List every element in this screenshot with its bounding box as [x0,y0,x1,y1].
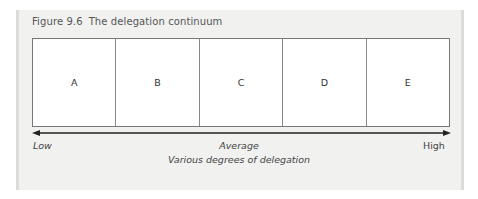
scale-label-high: High [423,140,445,151]
continuum-cell-b: B [116,39,199,126]
axis-label: Various degrees of delegation [0,154,478,165]
figure-number: Figure 9.6 [32,16,83,27]
double-arrow-icon [32,128,451,138]
continuum-cell-a: A [33,39,116,126]
continuum-cell-c: C [200,39,283,126]
continuum-boxes: A B C D E [32,38,450,127]
scale-label-average: Average [0,140,478,151]
figure-title: The delegation continuum [89,16,223,27]
continuum-cell-d: D [283,39,366,126]
continuum-cell-e: E [367,39,449,126]
figure-caption: Figure 9.6The delegation continuum [32,16,222,27]
